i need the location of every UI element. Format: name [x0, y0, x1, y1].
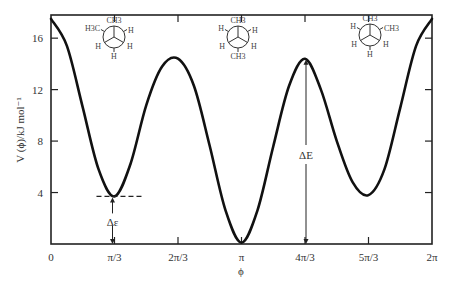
substituent-lower-right: H — [127, 42, 133, 51]
substituent-lower-left: H — [95, 42, 101, 51]
newman-projection-gauche-right: CH3HCH3HHH — [350, 14, 399, 59]
x-tick-label: 2π/3 — [168, 251, 188, 263]
back-bond — [101, 30, 104, 32]
substituent-upper-right: H — [128, 26, 134, 35]
substituent-upper-left: H — [218, 24, 224, 33]
substituent-lower-left: H — [219, 42, 225, 51]
back-bond — [380, 28, 383, 30]
back-bond — [124, 30, 127, 32]
y-tick-label: 12 — [32, 84, 43, 96]
substituent-upper-left: H3C — [85, 24, 100, 33]
x-tick-label: 0 — [48, 251, 54, 263]
x-tick-label: π/3 — [107, 251, 122, 263]
energy-profile-chart: 0π/32π/3π4π/35π/32π 481216 Δε ΔE ϕ V (ϕ)… — [0, 0, 451, 288]
substituent-bottom: CH3 — [230, 52, 245, 61]
y-tick-label: 16 — [32, 32, 44, 44]
substituent-upper-right: CH3 — [384, 24, 399, 33]
substituent-lower-right: H — [383, 40, 389, 49]
substituent-top: CH3 — [106, 16, 121, 25]
delta-epsilon-label: Δε — [107, 216, 119, 228]
substituent-upper-right: H — [252, 26, 258, 35]
substituent-lower-right: H — [251, 42, 257, 51]
y-tick-label: 4 — [38, 187, 44, 199]
y-tick-label: 8 — [38, 135, 44, 147]
substituent-top: CH3 — [362, 14, 377, 23]
x-tick-label: 5π/3 — [359, 251, 379, 263]
newman-projection-anti: CH3HHHHCH3 — [218, 16, 258, 61]
back-bond — [225, 30, 228, 32]
x-tick-label: 2π — [426, 251, 438, 263]
x-axis-title: ϕ — [238, 265, 244, 277]
y-axis-title: V (ϕ)/kJ mol⁻¹ — [14, 97, 27, 162]
newman-projection-gauche-left: CH3H3CHHHH — [85, 16, 134, 61]
arrow-head-up — [110, 197, 115, 202]
x-tick-label: 4π/3 — [295, 251, 315, 263]
substituent-bottom: H — [111, 52, 117, 61]
plot-frame — [51, 15, 432, 244]
substituent-upper-left: H — [350, 22, 356, 31]
x-tick-label: π — [239, 251, 245, 263]
back-bond — [357, 28, 360, 30]
delta-e-label: ΔE — [299, 149, 313, 161]
substituent-bottom: H — [367, 50, 373, 59]
substituent-lower-left: H — [351, 40, 357, 49]
back-bond — [248, 30, 251, 32]
substituent-top: CH3 — [230, 16, 245, 25]
